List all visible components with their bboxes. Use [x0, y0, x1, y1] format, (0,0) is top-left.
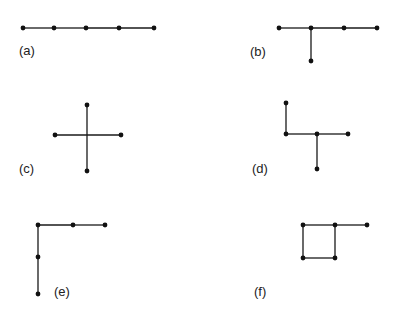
graph-vertex [85, 169, 90, 174]
graph-vertex [152, 26, 157, 31]
graph-vertex [284, 101, 289, 106]
panel-label: (f) [254, 284, 266, 299]
graph-figure: (a)(b)(c)(d)(e)(f) [0, 0, 398, 311]
graph-vertex [309, 26, 314, 31]
graph-vertex [309, 59, 314, 64]
graph-vertex [71, 223, 76, 228]
graph-panel-d: (d) [252, 101, 350, 176]
graph-panel-f: (f) [254, 223, 369, 299]
graph-vertex [346, 132, 351, 137]
graph-vertex [333, 256, 338, 261]
graph-vertex [333, 223, 338, 228]
graph-vertex [36, 223, 41, 228]
panel-label: (b) [250, 44, 266, 59]
graph-vertex [375, 26, 380, 31]
graph-panel-b: (b) [250, 26, 379, 64]
graph-vertex [342, 26, 347, 31]
graph-vertex [36, 292, 41, 297]
graph-vertex [103, 223, 108, 228]
graph-vertex [53, 133, 58, 138]
graph-panel-e: (e) [36, 223, 108, 299]
graph-vertex [119, 133, 124, 138]
graph-vertex [301, 256, 306, 261]
graph-vertex [315, 132, 320, 137]
panel-label: (a) [19, 43, 35, 58]
graph-vertex [301, 223, 306, 228]
graph-vertex [84, 26, 89, 31]
graph-vertex [21, 26, 26, 31]
graph-panel-c: (c) [19, 103, 123, 176]
graph-vertex [52, 26, 57, 31]
panel-label: (e) [54, 284, 70, 299]
graph-vertex [117, 26, 122, 31]
panel-label: (d) [252, 161, 268, 176]
panel-label: (c) [19, 161, 34, 176]
graph-vertex [365, 223, 370, 228]
graph-vertex [277, 26, 282, 31]
graph-vertex [36, 255, 41, 260]
graph-vertex [284, 132, 289, 137]
graph-panel-a: (a) [19, 26, 156, 58]
graph-vertex [315, 167, 320, 172]
graph-vertex [85, 103, 90, 108]
